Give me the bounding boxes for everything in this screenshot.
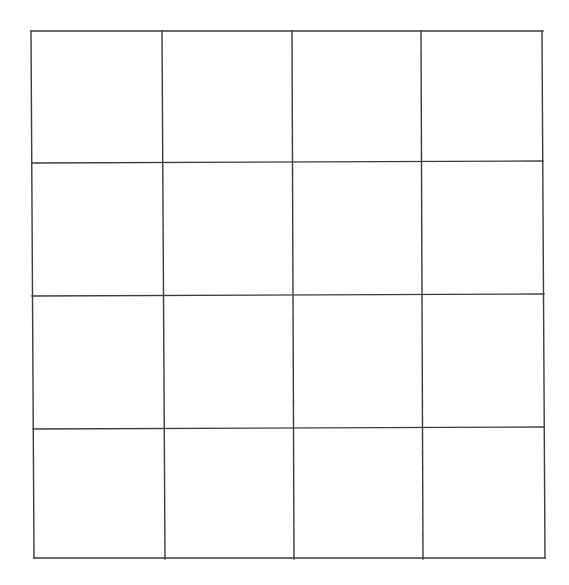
grid-cell-r2-c3 [293, 162, 422, 295]
grid-cell-r1-c4 [422, 31, 544, 162]
grid-cell-r4-c1 [33, 428, 164, 558]
grid-cell-r2-c1 [33, 162, 164, 295]
grid-cell-r3-c4 [422, 295, 544, 428]
grid-cell-r4-c3 [293, 428, 422, 558]
grid-cell-r3-c2 [164, 295, 294, 428]
grid-cell-r2-c4 [422, 162, 544, 295]
grid-cell-r1-c1 [33, 31, 164, 162]
grid-cell-r2-c2 [164, 162, 294, 295]
grid-cell-r4-c2 [164, 428, 294, 558]
grid-cell-r1-c3 [293, 31, 422, 162]
grid-cell-r1-c2 [164, 31, 294, 162]
grid-diagram [0, 0, 569, 585]
grid-cell-r3-c1 [33, 295, 164, 428]
grid-cell-r4-c4 [422, 428, 544, 558]
grid-cell-r3-c3 [293, 295, 422, 428]
